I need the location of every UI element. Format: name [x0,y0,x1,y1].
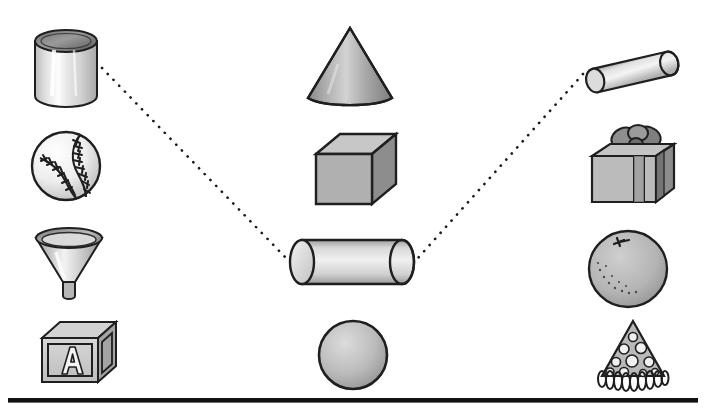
object-orange[interactable] [584,226,672,312]
object-party-hat[interactable] [588,318,678,394]
object-alphabet-block[interactable] [38,318,120,388]
figure-cube[interactable] [310,130,402,212]
bottom-divider-rule-shadow [8,402,698,403]
shape-matching-worksheet [0,0,706,416]
object-funnel[interactable] [30,224,108,304]
object-rolling-pin[interactable] [580,46,684,96]
figure-cone[interactable] [300,24,400,114]
object-tin-can[interactable] [30,26,102,112]
connector-tin-can-to-cylinder[interactable] [102,68,286,258]
object-gift-box[interactable] [586,122,680,212]
object-baseball[interactable] [28,128,104,204]
connector-rolling-pin-to-cylinder[interactable] [418,74,583,258]
figure-cylinder[interactable] [284,234,420,290]
figure-sphere[interactable] [314,318,394,394]
